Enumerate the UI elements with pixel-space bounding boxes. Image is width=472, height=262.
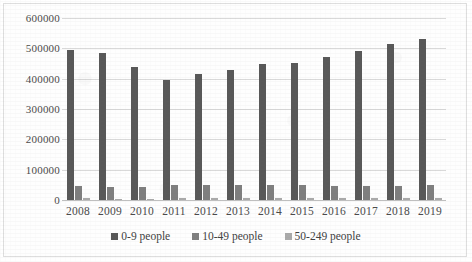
legend-item-0[interactable]: 0-9 people — [111, 230, 170, 242]
legend-swatch-icon — [111, 233, 118, 240]
bar-group — [190, 18, 222, 200]
bar-2012-series0[interactable] — [195, 74, 202, 200]
legend-label: 0-9 people — [121, 230, 170, 242]
y-axis-tick-label: 400000 — [26, 73, 60, 84]
bar-2016-series0[interactable] — [323, 57, 330, 200]
bar-2017-series0[interactable] — [355, 51, 362, 200]
bar-2012-series1[interactable] — [203, 185, 210, 200]
y-axis-tick-label: 100000 — [26, 164, 60, 175]
bar-2008-series1[interactable] — [75, 186, 82, 200]
y-axis-tick-label: 200000 — [26, 134, 60, 145]
x-axis-tick-label: 2014 — [254, 203, 286, 221]
bar-group — [222, 18, 254, 200]
legend-swatch-icon — [285, 233, 292, 240]
plot-area — [62, 18, 446, 200]
x-axis-line — [62, 200, 446, 201]
bar-group — [318, 18, 350, 200]
bar-2008-series0[interactable] — [67, 50, 74, 200]
bar-2017-series1[interactable] — [363, 186, 370, 200]
chart-container: 6000005000004000003000002000001000000 20… — [3, 3, 467, 257]
bar-2014-series1[interactable] — [267, 185, 274, 200]
bar-2009-series0[interactable] — [99, 53, 106, 200]
bar-2011-series1[interactable] — [171, 185, 178, 200]
legend-swatch-icon — [192, 233, 199, 240]
x-axis-tick-label: 2016 — [318, 203, 350, 221]
bar-2019-series1[interactable] — [427, 185, 434, 200]
y-axis-tick-label: 0 — [54, 195, 60, 206]
bar-2011-series0[interactable] — [163, 80, 170, 200]
bar-group — [286, 18, 318, 200]
y-axis: 6000005000004000003000002000001000000 — [12, 18, 60, 200]
bar-2016-series1[interactable] — [331, 186, 338, 200]
x-axis-tick-label: 2011 — [158, 203, 190, 221]
x-axis-tick-label: 2009 — [94, 203, 126, 221]
x-axis-tick-label: 2019 — [414, 203, 446, 221]
chart-legend: 0-9 people10-49 people50-249 people — [4, 226, 468, 246]
y-axis-tick-label: 600000 — [26, 13, 60, 24]
x-axis-tick-label: 2010 — [126, 203, 158, 221]
x-axis-tick-label: 2012 — [190, 203, 222, 221]
legend-label: 10-49 people — [202, 230, 262, 242]
legend-label: 50-249 people — [295, 230, 361, 242]
bar-group — [158, 18, 190, 200]
x-axis-tick-label: 2018 — [382, 203, 414, 221]
bar-group — [382, 18, 414, 200]
bar-group — [62, 18, 94, 200]
bar-2018-series1[interactable] — [395, 186, 402, 200]
bar-2009-series1[interactable] — [107, 187, 114, 200]
x-axis-tick-label: 2015 — [286, 203, 318, 221]
bar-group — [350, 18, 382, 200]
bar-2015-series1[interactable] — [299, 185, 306, 200]
bar-2013-series0[interactable] — [227, 70, 234, 200]
bar-2019-series0[interactable] — [419, 39, 426, 200]
bar-groups — [62, 18, 446, 200]
y-axis-tick-label: 300000 — [26, 104, 60, 115]
bar-2018-series0[interactable] — [387, 44, 394, 200]
bar-2010-series0[interactable] — [131, 67, 138, 200]
legend-item-2[interactable]: 50-249 people — [285, 230, 361, 242]
x-axis-tick-label: 2017 — [350, 203, 382, 221]
legend-item-1[interactable]: 10-49 people — [192, 230, 262, 242]
bar-group — [126, 18, 158, 200]
bar-group — [254, 18, 286, 200]
bar-2014-series0[interactable] — [259, 64, 266, 201]
bar-group — [414, 18, 446, 200]
bar-2010-series1[interactable] — [139, 187, 146, 200]
bar-group — [94, 18, 126, 200]
y-axis-tick-label: 500000 — [26, 43, 60, 54]
x-axis-tick-label: 2008 — [62, 203, 94, 221]
x-axis-tick-label: 2013 — [222, 203, 254, 221]
bar-2013-series1[interactable] — [235, 185, 242, 200]
x-axis: 2008200920102011201220132014201520162017… — [62, 203, 446, 221]
plot-wrapper: 6000005000004000003000002000001000000 20… — [4, 4, 468, 258]
bar-2015-series0[interactable] — [291, 63, 298, 200]
